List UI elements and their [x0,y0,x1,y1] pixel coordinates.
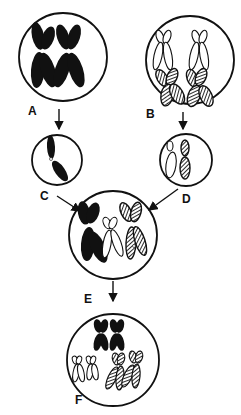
cell-d [160,134,212,186]
chromosome-outline [85,355,99,380]
chromosome-hatched [153,67,188,107]
chromosome-outline [187,29,210,70]
chromosome-outline [151,29,174,70]
chromosome-solid [92,318,110,352]
cell-b [146,16,234,109]
chromosome-solid-single [46,135,71,184]
chromosome-outline-single [164,141,178,179]
label-b: B [146,107,155,121]
arrow-d-to-e [149,189,178,210]
arrow-c-to-e [57,196,80,211]
chromosome-diagram [0,0,241,415]
chromosome-hatched-single [180,140,190,179]
chromosome-solid [50,23,88,89]
cell-c [32,135,82,185]
cell-e [69,191,157,279]
label-d: D [182,192,191,206]
chromosome-solid [108,318,126,352]
label-e: E [84,292,92,306]
label-f: F [75,393,82,407]
label-c: C [40,189,49,203]
chromosome-outline [101,216,126,258]
label-a: A [28,104,37,118]
cell-a [19,13,107,101]
chromosome-outline [71,355,86,382]
